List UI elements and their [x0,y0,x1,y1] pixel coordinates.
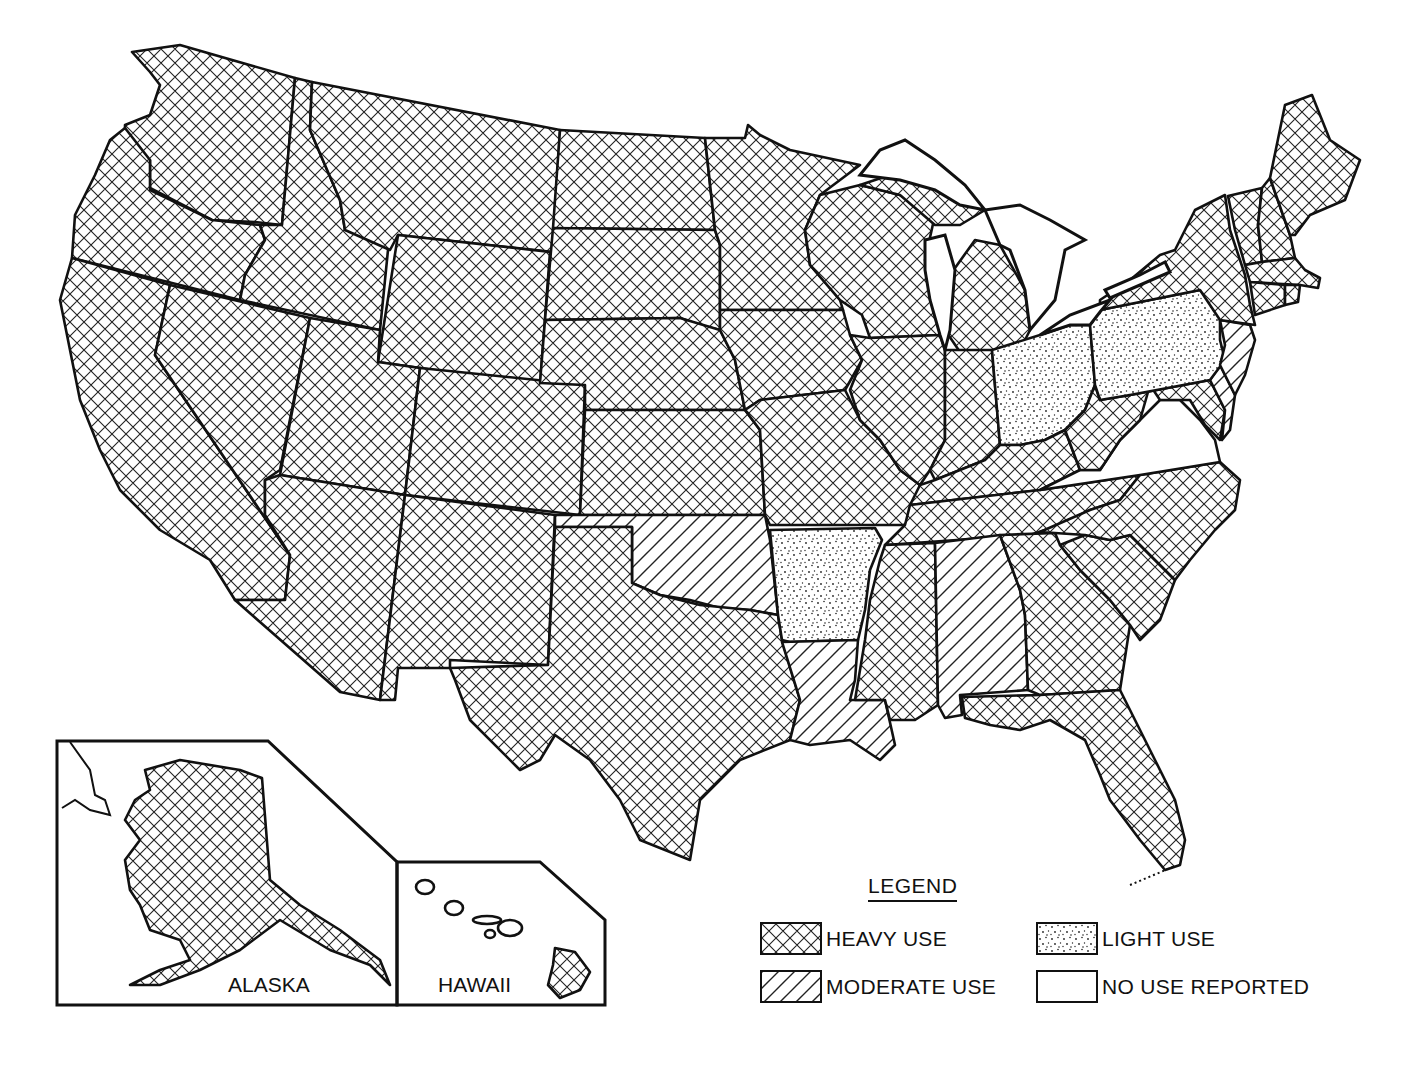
legend: LEGEND HEAVY USE LIGHT USE MODERATE USE … [760,874,1340,1024]
legend-item-light: LIGHT USE [1036,922,1215,955]
heavy-use-swatch [760,922,822,955]
state-ks[interactable] [580,410,765,515]
legend-item-moderate: MODERATE USE [760,970,996,1003]
island-lanai [485,930,495,938]
legend-label-light: LIGHT USE [1102,927,1215,951]
state-nd[interactable] [553,130,715,230]
hawaii-inset: HAWAII [397,862,605,1005]
light-use-swatch [1036,922,1098,955]
alaska-inset: ALASKA [57,741,397,1005]
moderate-use-swatch [760,970,822,1003]
island-oahu [445,901,463,915]
state-mt[interactable] [310,82,560,252]
state-co[interactable] [405,368,585,515]
legend-label-moderate: MODERATE USE [826,975,996,999]
no-use-swatch [1036,970,1098,1003]
conterminous-us [60,45,1360,870]
state-fl[interactable] [962,690,1185,870]
state-me[interactable] [1270,95,1360,235]
state-ak[interactable] [125,760,390,985]
hawaii-label: HAWAII [438,973,511,996]
state-ct[interactable] [1250,282,1285,315]
island-molokai [473,916,501,924]
island-maui [498,920,522,936]
state-wy[interactable] [378,235,550,385]
legend-label-heavy: HEAVY USE [826,927,947,951]
alaska-label: ALASKA [228,973,310,996]
legend-title: LEGEND [868,874,957,902]
island-kauai [416,880,434,894]
legend-label-none: NO USE REPORTED [1102,975,1309,999]
state-sd[interactable] [545,228,720,330]
legend-item-heavy: HEAVY USE [760,922,947,955]
legend-item-none: NO USE REPORTED [1036,970,1309,1003]
state-ri[interactable] [1285,285,1300,305]
island-big-island[interactable] [548,948,590,998]
state-ar[interactable] [770,528,882,642]
siberia-coast [62,742,110,815]
